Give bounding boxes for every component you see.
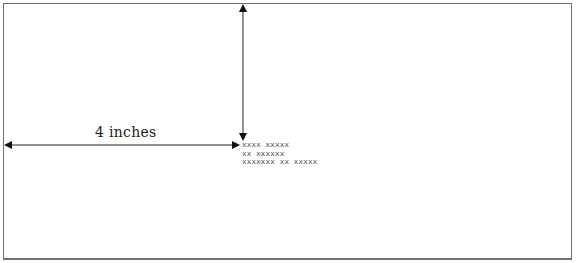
vertical-arrow — [239, 4, 247, 141]
dimension-arrows — [0, 0, 578, 263]
horizontal-arrow — [4, 141, 240, 149]
address-block: xxxx xxxxx xx xxxxxx xxxxxxx xx xxxxx — [242, 141, 317, 167]
address-line: xxxxxxx xx xxxxx — [242, 158, 317, 167]
dimension-label: 4 inches — [95, 124, 157, 140]
